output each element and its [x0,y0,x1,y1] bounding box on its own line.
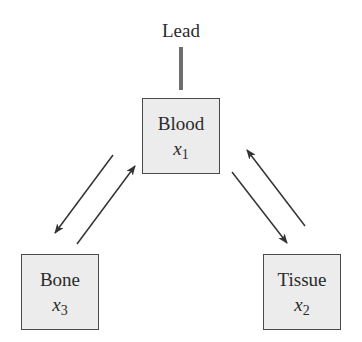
arrow-bone-to-blood [77,166,135,244]
flow-arrows [0,0,362,342]
arrow-tissue-to-blood [247,150,305,226]
arrow-blood-to-tissue [232,172,287,243]
arrow-blood-to-bone [55,155,113,233]
